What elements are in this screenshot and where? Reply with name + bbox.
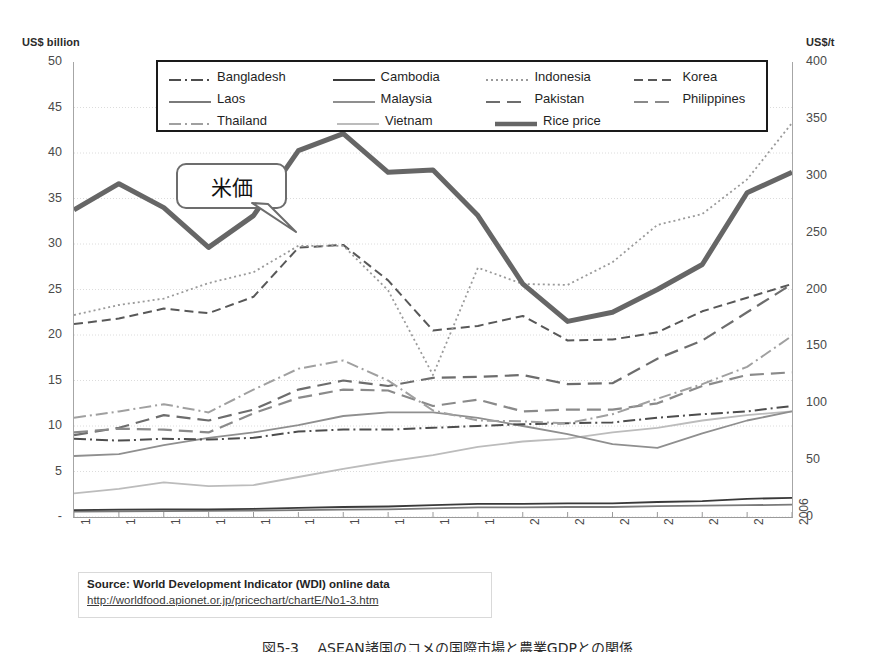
source-text: Source: World Development Indicator (WDI… [87,578,483,590]
figure-caption: 図5-3 ASEAN諸国のコメの国際市場と農業GDPとの関係 [0,637,895,652]
figure-root: US$ billion US$/t 5045403530252015105- 4… [0,0,895,652]
callout-tail-icon [0,0,895,652]
source-box: Source: World Development Indicator (WDI… [78,572,492,618]
source-url-link[interactable]: http://worldfood.apionet.or.jp/pricechar… [87,594,483,606]
